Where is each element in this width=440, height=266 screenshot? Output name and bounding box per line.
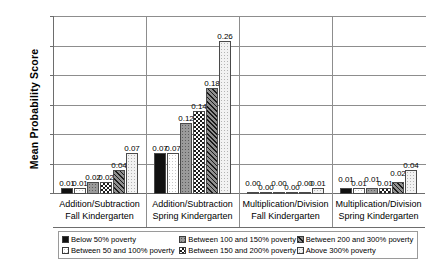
- legend-swatch: [62, 247, 69, 254]
- bar-slot: 0.01: [61, 17, 73, 194]
- legend-item[interactable]: Between 100 and 150% poverty: [179, 234, 296, 245]
- bar-slot: 0.04: [405, 17, 417, 194]
- bar-value-label: 0.07: [124, 145, 140, 153]
- bar[interactable]: 0.07: [126, 153, 138, 194]
- bar-chart: Mean Probability Score 0.000.050.100.150…: [0, 0, 440, 266]
- bar-slot: 0.12: [180, 17, 192, 194]
- bar-slot: 0.00: [286, 17, 298, 194]
- legend-label: Between 100 and 150% poverty: [188, 234, 296, 245]
- bar[interactable]: 0.12: [180, 123, 192, 194]
- bar-value-label: 0.14: [191, 103, 207, 111]
- bar[interactable]: 0.07: [167, 153, 179, 194]
- bar[interactable]: 0.14: [193, 111, 205, 194]
- chart-legend: Below 50% povertyBetween 100 and 150% po…: [58, 231, 418, 259]
- legend-label: Below 50% poverty: [71, 234, 136, 245]
- bar-group: 0.010.010.020.020.040.07: [53, 17, 146, 194]
- y-axis-title: Mean Probability Score: [28, 14, 40, 204]
- bar-slot: 0.00: [273, 17, 285, 194]
- legend-swatch: [179, 236, 186, 243]
- bar[interactable]: 0.18: [206, 88, 218, 194]
- legend-item[interactable]: Below 50% poverty: [62, 234, 179, 245]
- bar-value-label: 0.02: [98, 174, 114, 182]
- bar-value-label: 0.01: [310, 180, 326, 188]
- bar-value-label: 0.02: [390, 170, 406, 178]
- legend-swatch: [297, 247, 304, 254]
- bar-slot: 0.01: [366, 17, 378, 194]
- bar-value-label: 0.18: [204, 80, 220, 88]
- bar-value-label: 0.07: [165, 145, 181, 153]
- legend-item[interactable]: Between 200 and 300% poverty: [297, 234, 414, 245]
- bar[interactable]: 0.02: [392, 182, 404, 194]
- bar-value-label: 0.04: [111, 162, 127, 170]
- bar[interactable]: 0.07: [154, 153, 166, 194]
- bar-slot: 0.02: [392, 17, 404, 194]
- bar-slot: 0.18: [206, 17, 218, 194]
- legend-label: Above 300% poverty: [306, 245, 376, 256]
- legend-label: Between 150 and 200% poverty: [188, 245, 296, 256]
- bar-groups: 0.010.010.020.020.040.070.070.070.120.14…: [53, 17, 425, 194]
- bar-slot: 0.14: [193, 17, 205, 194]
- bar[interactable]: 0.02: [87, 182, 99, 194]
- bar-slot: 0.00: [299, 17, 311, 194]
- bar-slot: 0.01: [379, 17, 391, 194]
- legend-swatch: [62, 236, 69, 243]
- bar-slot: 0.04: [113, 17, 125, 194]
- bar[interactable]: 0.26: [219, 41, 231, 194]
- bar-slot: 0.07: [154, 17, 166, 194]
- legend-label: Between 50 and 100% poverty: [71, 245, 174, 256]
- bar-value-label: 0.04: [403, 162, 419, 170]
- bar-slot: 0.00: [247, 17, 259, 194]
- bar-group: 0.070.070.120.140.180.26: [146, 17, 239, 194]
- bar-slot: 0.07: [167, 17, 179, 194]
- x-axis-category-label: Multiplication/DivisionSpring Kindergart…: [332, 194, 425, 227]
- x-axis-category-label: Addition/SubtractionFall Kindergarten: [53, 194, 146, 227]
- bar-value-label: 0.01: [377, 180, 393, 188]
- bar-slot: 0.00: [260, 17, 272, 194]
- bar-slot: 0.26: [219, 17, 231, 194]
- x-axis-category-label: Multiplication/DivisionFall Kindergarten: [239, 194, 332, 227]
- bar-slot: 0.01: [74, 17, 86, 194]
- bar-slot: 0.07: [126, 17, 138, 194]
- bar-group: 0.000.000.000.000.000.01: [239, 17, 332, 194]
- legend-item[interactable]: Between 50 and 100% poverty: [62, 245, 179, 256]
- bar-value-label: 0.12: [178, 115, 194, 123]
- bar[interactable]: 0.04: [113, 170, 125, 194]
- x-axis-labels: Addition/SubtractionFall KindergartenAdd…: [53, 194, 425, 228]
- legend-item[interactable]: Between 150 and 200% poverty: [179, 245, 296, 256]
- bar-slot: 0.02: [87, 17, 99, 194]
- legend-label: Between 200 and 300% poverty: [306, 234, 414, 245]
- bar[interactable]: 0.04: [405, 170, 417, 194]
- bar-slot: 0.01: [353, 17, 365, 194]
- legend-item[interactable]: Above 300% poverty: [297, 245, 414, 256]
- bar-slot: 0.01: [312, 17, 324, 194]
- bar[interactable]: 0.02: [100, 182, 112, 194]
- x-axis-category-label: Addition/SubtractionSpring Kindergarten: [146, 194, 239, 227]
- bar-group: 0.010.010.010.010.020.04: [332, 17, 425, 194]
- legend-swatch: [179, 247, 186, 254]
- bar-slot: 0.01: [340, 17, 352, 194]
- bar-slot: 0.02: [100, 17, 112, 194]
- bar-value-label: 0.26: [217, 33, 233, 41]
- legend-swatch: [297, 236, 304, 243]
